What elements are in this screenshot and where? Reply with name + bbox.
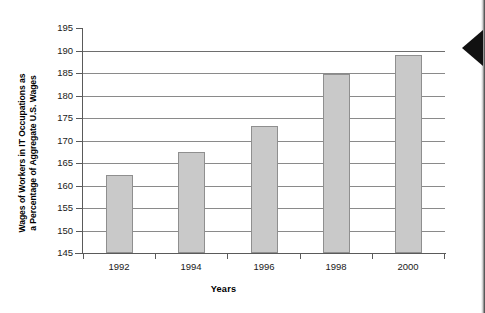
y-axis-title-line-1: Wages of Workers in IT Occupations as [17, 73, 29, 232]
y-tick-165 [76, 163, 83, 164]
bar-1998 [323, 74, 350, 253]
y-tick-label-165: 165 [57, 158, 73, 168]
y-tick-155 [76, 208, 83, 209]
bar-1994 [178, 152, 205, 253]
y-tick-190 [76, 51, 83, 52]
x-tick-5 [444, 253, 445, 259]
y-axis-title-line-2: a Percentage of Aggregate U.S. Wages [28, 75, 40, 231]
bar-2000 [395, 55, 422, 253]
y-tick-label-180: 180 [57, 91, 73, 101]
y-tick-label-150: 150 [57, 226, 73, 236]
x-tick-label-1996: 1996 [253, 262, 274, 272]
y-tick-160 [76, 186, 83, 187]
y-tick-180 [76, 96, 83, 97]
x-tick-4 [372, 253, 373, 259]
bar-1996 [251, 126, 278, 253]
x-tick-0 [83, 253, 84, 259]
y-tick-195 [76, 28, 83, 29]
left-pointing-triangle-icon [462, 30, 483, 66]
gridline-185 [83, 73, 445, 74]
y-tick-185 [76, 73, 83, 74]
y-tick-170 [76, 141, 83, 142]
y-tick-label-170: 170 [57, 136, 73, 146]
y-tick-145 [76, 253, 83, 254]
y-axis-title: Wages of Workers in IT Occupations as a … [11, 33, 45, 273]
x-tick-label-1992: 1992 [108, 262, 129, 272]
gridline-190 [83, 51, 445, 52]
bar-chart-figure: Wages of Workers in IT Occupations as a … [0, 0, 485, 313]
x-tick-1 [155, 253, 156, 259]
y-tick-label-185: 185 [57, 68, 73, 78]
y-tick-label-190: 190 [57, 46, 73, 56]
y-tick-label-155: 155 [57, 203, 73, 213]
x-tick-3 [300, 253, 301, 259]
x-axis-title: Years [0, 284, 485, 294]
x-tick-2 [227, 253, 228, 259]
plot-area: 195 190 185 180 175 170 165 160 155 150 … [83, 28, 445, 253]
x-axis-title-text: Years [211, 284, 237, 294]
x-axis-line [75, 253, 446, 254]
y-tick-label-195: 195 [57, 23, 73, 33]
y-tick-label-160: 160 [57, 181, 73, 191]
y-tick-label-145: 145 [57, 248, 73, 258]
y-tick-175 [76, 118, 83, 119]
gridline-175 [83, 118, 445, 119]
x-tick-label-1998: 1998 [325, 262, 346, 272]
x-tick-label-2000: 2000 [397, 262, 418, 272]
y-tick-label-175: 175 [57, 113, 73, 123]
y-tick-150 [76, 231, 83, 232]
x-tick-label-1994: 1994 [180, 262, 201, 272]
gridline-180 [83, 96, 445, 97]
bar-1992 [106, 175, 133, 253]
